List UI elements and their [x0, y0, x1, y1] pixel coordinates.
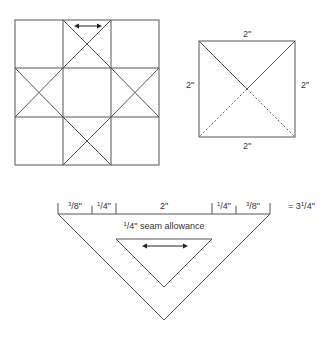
crossed-cell-top [63, 20, 111, 68]
unit-square-top-label: 2" [243, 29, 251, 39]
unit-square-left-label: 2" [186, 80, 194, 90]
grain-arrow-icon [142, 244, 188, 249]
crossed-cell-left [15, 68, 63, 117]
segment-label-1-4-right: 1/4" [217, 201, 231, 211]
total-label: = 31/4" [288, 201, 315, 211]
unit-square: 2" 2" 2" 2" [186, 29, 309, 151]
quilt-diagram: 2" 2" 2" 2" 3/8" 1/4" 2" 1/4" 3/8" = 31/… [0, 0, 323, 339]
unit-square-right-label: 2" [301, 80, 309, 90]
crossed-cell-bottom [63, 117, 111, 165]
segment-label-2: 2" [160, 201, 168, 211]
block-outline [15, 20, 159, 165]
triangle-template: 3/8" 1/4" 2" 1/4" 3/8" = 31/4" 1/4" seam… [58, 201, 315, 320]
segment-label-1-4-left: 1/4" [97, 201, 111, 211]
seam-allowance-label: 1/4" seam allowance [123, 221, 204, 231]
unit-square-bottom-label: 2" [243, 141, 251, 151]
segment-label-3-8-right: 3/8" [246, 201, 260, 211]
block-grid [15, 20, 159, 165]
segment-label-3-8-left: 3/8" [68, 201, 82, 211]
grain-arrow-icon [74, 24, 102, 29]
crossed-cell-right [111, 68, 159, 117]
